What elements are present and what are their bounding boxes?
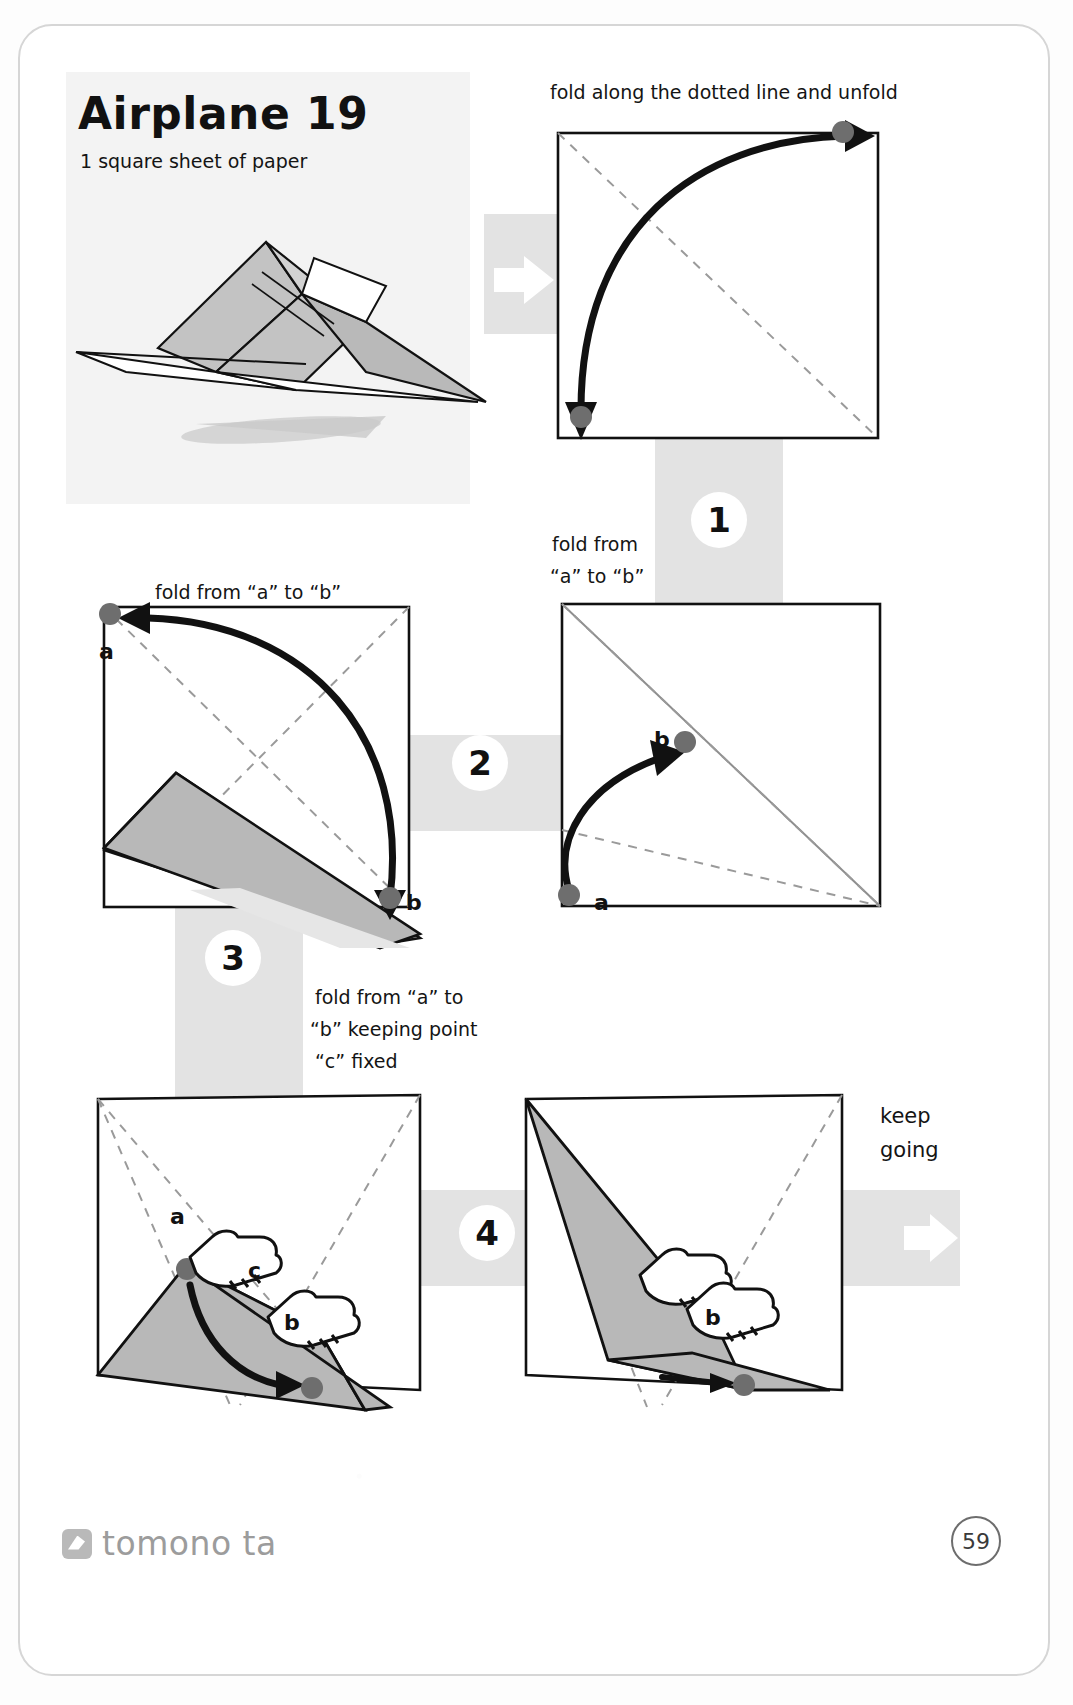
step-4-diagram-left bbox=[90, 1085, 440, 1410]
step-2-caption-line1: fold from bbox=[552, 530, 638, 558]
brand-mark-icon bbox=[62, 1529, 92, 1559]
point-b-dot bbox=[674, 731, 696, 753]
page-title: Airplane 19 bbox=[78, 88, 368, 139]
page-subtitle: 1 square sheet of paper bbox=[80, 150, 307, 172]
step-4-caption-line2: “b” keeping point bbox=[310, 1015, 477, 1043]
point-b-dot bbox=[733, 1374, 755, 1396]
step-number-1: 1 bbox=[691, 492, 747, 548]
step-4-caption-line3: “c” fixed bbox=[315, 1047, 398, 1075]
step-3-label-b: b bbox=[406, 890, 422, 915]
point-a-dot bbox=[558, 884, 580, 906]
step-2-label-a: a bbox=[594, 890, 609, 915]
page-number: 59 bbox=[951, 1516, 1001, 1566]
step-4-caption-line1: fold from “a” to bbox=[315, 983, 463, 1011]
step-1-caption: fold along the dotted line and unfold bbox=[550, 78, 898, 106]
step-2-label-b: b bbox=[654, 727, 670, 752]
step-number-2: 2 bbox=[452, 735, 508, 791]
brand-logo: tomono ta bbox=[62, 1524, 277, 1563]
step-number-4: 4 bbox=[459, 1205, 515, 1261]
point-b-dot bbox=[379, 887, 401, 909]
step-5-label-b: b bbox=[705, 1305, 721, 1330]
step-4-label-a: a bbox=[170, 1204, 185, 1229]
step-3-diagram bbox=[90, 598, 430, 943]
keep-going-line2: going bbox=[880, 1133, 939, 1167]
keep-going-line1: keep bbox=[880, 1099, 931, 1133]
step-2-diagram bbox=[545, 590, 905, 930]
right-arrow-icon-2 bbox=[900, 1208, 970, 1268]
step-2-caption-line2: “a” to “b” bbox=[550, 562, 644, 590]
step-3-label-a: a bbox=[99, 639, 114, 664]
step-4-diagram-right bbox=[512, 1085, 862, 1410]
point-a-dot bbox=[99, 603, 121, 625]
step-1-diagram bbox=[545, 110, 905, 460]
brand-name: tomono ta bbox=[102, 1524, 277, 1563]
point-b-dot bbox=[301, 1377, 323, 1399]
step-4-label-b: b bbox=[284, 1310, 300, 1335]
step-4-label-c: c bbox=[248, 1258, 261, 1283]
